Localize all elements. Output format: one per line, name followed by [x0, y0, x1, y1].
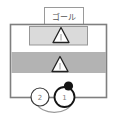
- player-circle-2: 2: [31, 88, 49, 106]
- goal-label: ゴール: [52, 12, 76, 22]
- player-circle-1-label: 1: [62, 94, 66, 102]
- board-game-diagram: ゴール 2 1: [0, 0, 119, 119]
- player-circle-2-label: 2: [38, 94, 42, 102]
- position-marker-dot-icon: [64, 81, 73, 90]
- diagram-canvas: ゴール 2 1: [0, 0, 119, 119]
- player-circle-1: 1: [55, 87, 75, 107]
